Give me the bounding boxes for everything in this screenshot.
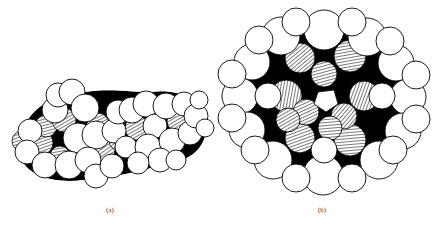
figure-space-filling-models: (a) (b) [0, 0, 435, 227]
panel-b-caption: (b) [318, 206, 326, 213]
panel-a-caption: (a) [106, 206, 114, 213]
molecular-models-illustration [0, 0, 435, 227]
